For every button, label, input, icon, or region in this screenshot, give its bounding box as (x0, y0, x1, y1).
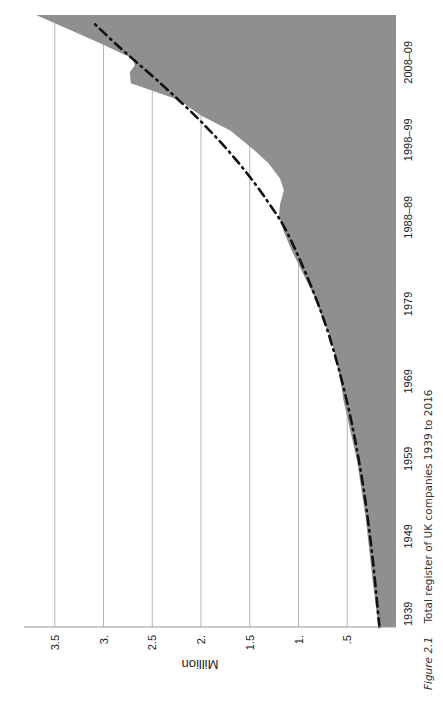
value-tick-label: 3.5 (49, 635, 61, 650)
year-tick-label: 1988–89 (402, 196, 414, 239)
value-tick-label: 2. (195, 635, 207, 644)
value-tick-labels: .51.1.52.2.53.3.5 (49, 635, 354, 650)
value-tick-label: 2.5 (146, 635, 158, 650)
year-tick-label: 1979 (402, 292, 414, 316)
value-tick-label: 1.5 (244, 635, 256, 650)
year-tick-label: 2008–09 (402, 41, 414, 84)
value-tick-label: .5 (341, 635, 353, 644)
year-tick-labels: 193919491959196919791988–891998–992008–0… (402, 41, 414, 626)
year-tick-label: 1949 (402, 524, 414, 548)
year-tick-label: 1959 (402, 447, 414, 471)
caption-text: Total register of UK companies 1939 to 2… (422, 389, 434, 624)
year-tick-label: 1998–99 (402, 118, 414, 161)
year-tick-label: 1939 (402, 602, 414, 626)
value-axis-title: Million (182, 657, 219, 672)
value-tick-label: 3. (98, 635, 110, 644)
value-tick-label: 1. (293, 635, 305, 644)
year-tick-label: 1969 (402, 369, 414, 393)
figure-caption: Figure 2.1 Total register of UK companie… (422, 389, 434, 690)
chart: .51.1.52.2.53.3.5 1939194919591969197919… (0, 0, 443, 702)
area-series-total-register (36, 15, 396, 627)
figure-label: Figure 2.1 (422, 637, 434, 690)
